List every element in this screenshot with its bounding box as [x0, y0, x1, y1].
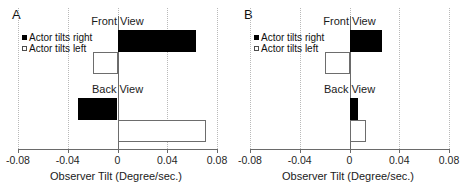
- bar-front-view-actor-tilts-right: [118, 30, 196, 52]
- x-tick-label--0.04: -0.04: [288, 155, 312, 166]
- bar-back-view-actor-tilts-right: [350, 98, 359, 120]
- panel-b: B Front ViewBack View -0.08-0.0400.040.0…: [232, 0, 464, 185]
- panel-b-plot-area: Front ViewBack View: [250, 8, 449, 149]
- gridline--0.08: [250, 8, 252, 149]
- bar-front-view-actor-tilts-left: [325, 52, 350, 74]
- gridline-0.08: [217, 8, 219, 149]
- bar-back-view-actor-tilts-left: [118, 120, 206, 142]
- front-view-group-title: Front View: [91, 16, 143, 27]
- x-tick-label--0.04: -0.04: [56, 155, 80, 166]
- x-tick-label-0: 0: [115, 155, 121, 166]
- x-tick-0.04: [399, 149, 400, 153]
- x-tick-label--0.08: -0.08: [238, 155, 262, 166]
- gridline-0.04: [399, 8, 401, 149]
- bar-back-view-actor-tilts-right: [78, 98, 118, 120]
- front-view-group-title: Front View: [323, 16, 375, 27]
- back-view-group-title: Back View: [92, 84, 143, 95]
- panel-a-plot-area: Front ViewBack View: [18, 8, 217, 149]
- open-square-icon: [254, 46, 259, 51]
- x-tick--0.08: [18, 149, 19, 153]
- x-tick-0.04: [167, 149, 168, 153]
- panel-a-legend-item-actor-tilts-right: Actor tilts right: [22, 32, 92, 43]
- panel-a-x-axis-title: Observer Tilt (Degree/sec.): [0, 170, 232, 182]
- filled-square-icon: [254, 35, 259, 40]
- gridline-0.08: [449, 8, 451, 149]
- x-tick--0.04: [300, 149, 301, 153]
- x-tick-0.08: [449, 149, 450, 153]
- panel-a-legend: Actor tilts right Actor tilts left: [22, 32, 92, 54]
- panel-b-legend-label-actor-tilts-left: Actor tilts left: [261, 43, 318, 54]
- x-tick--0.08: [250, 149, 251, 153]
- figure-two-panel-bar-charts: A Front ViewBack View -0.08-0.0400.040.0…: [0, 0, 464, 185]
- panel-b-legend-item-actor-tilts-left: Actor tilts left: [254, 43, 324, 54]
- x-tick-label-0.04: 0.04: [389, 155, 409, 166]
- bar-back-view-actor-tilts-left: [350, 120, 366, 142]
- x-tick-0: [350, 149, 351, 153]
- x-tick-label-0.08: 0.08: [207, 155, 227, 166]
- panel-b-legend: Actor tilts right Actor tilts left: [254, 32, 324, 54]
- gridline--0.04: [68, 8, 70, 149]
- panel-b-legend-item-actor-tilts-right: Actor tilts right: [254, 32, 324, 43]
- filled-square-icon: [22, 35, 27, 40]
- x-tick-0.08: [217, 149, 218, 153]
- open-square-icon: [22, 46, 27, 51]
- x-tick-label--0.08: -0.08: [6, 155, 30, 166]
- x-tick-label-0.08: 0.08: [439, 155, 459, 166]
- panel-b-legend-label-actor-tilts-right: Actor tilts right: [261, 32, 324, 43]
- panel-b-x-axis-title: Observer Tilt (Degree/sec.): [232, 170, 464, 182]
- x-tick-label-0.04: 0.04: [157, 155, 177, 166]
- gridline--0.04: [300, 8, 302, 149]
- panel-a-legend-label-actor-tilts-left: Actor tilts left: [29, 43, 86, 54]
- gridline--0.08: [18, 8, 20, 149]
- panel-a-legend-label-actor-tilts-right: Actor tilts right: [29, 32, 92, 43]
- x-tick--0.04: [68, 149, 69, 153]
- x-tick-label-0: 0: [347, 155, 353, 166]
- back-view-group-title: Back View: [324, 84, 375, 95]
- x-tick-0: [118, 149, 119, 153]
- panel-a-legend-item-actor-tilts-left: Actor tilts left: [22, 43, 92, 54]
- panel-a: A Front ViewBack View -0.08-0.0400.040.0…: [0, 0, 232, 185]
- bar-front-view-actor-tilts-left: [93, 52, 118, 74]
- bar-front-view-actor-tilts-right: [350, 30, 382, 52]
